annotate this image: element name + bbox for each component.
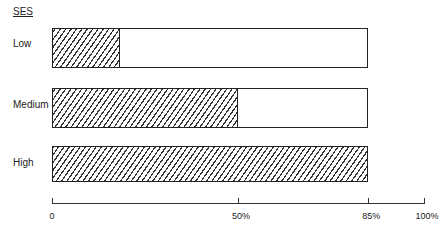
x-tick (424, 198, 425, 204)
x-tick-label: 100% (415, 211, 438, 221)
bar-high-hatched (53, 147, 367, 181)
x-tick (238, 198, 239, 204)
bar-low-hatched (53, 29, 120, 67)
category-label-high: High (13, 157, 34, 168)
legend-title: SES (13, 6, 33, 17)
x-tick-label: 85% (362, 211, 380, 221)
bar-medium-hatched (53, 89, 238, 127)
bar-low (52, 28, 368, 68)
category-label-low: Low (13, 38, 31, 49)
x-tick (52, 198, 53, 204)
x-tick-label: 0 (49, 211, 54, 221)
category-label-medium: Medium (13, 99, 49, 110)
bar-medium (52, 88, 368, 128)
x-tick-label: 50% (232, 211, 250, 221)
x-tick (368, 198, 369, 204)
bar-high (52, 146, 368, 182)
